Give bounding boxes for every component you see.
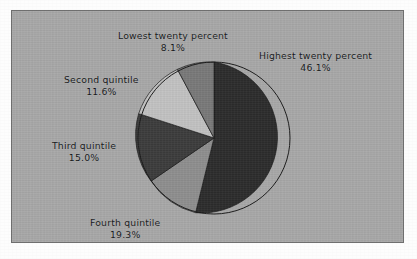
pie-label-percent: 11.6%	[64, 86, 139, 98]
figure-caption	[12, 248, 312, 258]
pie-label-second-quintile: Second quintile 11.6%	[64, 74, 139, 97]
pie-label-highest-twenty-percent: Highest twenty percent 46.1%	[259, 50, 372, 73]
pie-label-name: Lowest twenty percent	[118, 30, 228, 41]
pie-label-percent: 46.1%	[259, 62, 372, 74]
pie-slices	[136, 62, 278, 213]
pie-label-percent: 15.0%	[52, 152, 116, 164]
pie-label-name: Highest twenty percent	[259, 50, 372, 61]
pie-label-lowest-twenty-percent: Lowest twenty percent 8.1%	[118, 30, 228, 53]
scanned-page: Highest twenty percent 46.1% Lowest twen…	[0, 0, 417, 259]
pie-label-name: Second quintile	[64, 74, 139, 85]
pie-label-name: Fourth quintile	[90, 217, 161, 228]
pie-label-percent: 8.1%	[118, 42, 228, 54]
pie-label-fourth-quintile: Fourth quintile 19.3%	[90, 217, 161, 240]
pie-label-third-quintile: Third quintile 15.0%	[52, 140, 116, 163]
figure-panel: Highest twenty percent 46.1% Lowest twen…	[11, 10, 404, 243]
pie-label-percent: 19.3%	[90, 229, 161, 241]
pie-label-name: Third quintile	[52, 140, 116, 151]
